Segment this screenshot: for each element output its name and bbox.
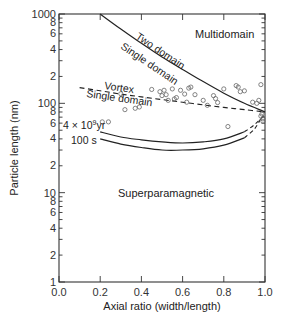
data-point xyxy=(259,83,263,87)
data-point xyxy=(162,88,166,92)
x-tick-label: 0.2 xyxy=(93,286,108,298)
data-point xyxy=(251,100,255,104)
label-100s: 100 s xyxy=(71,134,97,146)
data-point xyxy=(213,96,217,100)
x-tick-label: 0.6 xyxy=(175,286,190,298)
x-tick-label: 1.0 xyxy=(257,286,272,298)
y-tick-label: 10 xyxy=(44,187,56,199)
y-tick-label: 2 xyxy=(50,70,56,82)
y-tick-label: 4 xyxy=(50,132,56,144)
curve-4-x-10-9-yr-solid xyxy=(100,132,244,143)
y-tick-label: 6 xyxy=(50,117,56,129)
region-label-multidomain: Multidomain xyxy=(195,28,254,40)
data-point xyxy=(150,87,154,91)
data-point xyxy=(133,106,137,110)
x-tick-label: 0.0 xyxy=(51,286,66,298)
y-tick-label: 6 xyxy=(50,206,56,218)
data-point xyxy=(257,98,261,102)
label-4e9yr: 4 × 109yr xyxy=(63,119,106,131)
data-point xyxy=(211,94,215,98)
curve-100-s-solid xyxy=(100,138,244,150)
data-point xyxy=(201,98,205,102)
data-point xyxy=(106,120,110,124)
y-tick-label: 100 xyxy=(38,97,56,109)
y-tick-label: 4 xyxy=(50,222,56,234)
y-tick-label: 2 xyxy=(50,249,56,261)
y-tick-label: 6 xyxy=(50,27,56,39)
data-point xyxy=(123,108,127,112)
data-point xyxy=(183,92,187,96)
x-tick-label: 0.8 xyxy=(216,286,231,298)
region-label-superparamagnetic: Superparamagnetic xyxy=(118,187,215,199)
y-axis-title: Particle length (nm) xyxy=(8,100,20,195)
data-point xyxy=(222,87,226,91)
data-point xyxy=(160,94,164,98)
y-tick-label: 4 xyxy=(50,43,56,55)
data-point xyxy=(238,90,242,94)
data-point xyxy=(242,89,246,93)
data-point xyxy=(178,88,182,92)
x-axis-title: Axial ratio (width/length) xyxy=(103,300,220,312)
data-point xyxy=(158,90,162,94)
data-point xyxy=(164,93,168,97)
data-point xyxy=(216,100,220,104)
x-tick-label: 0.4 xyxy=(134,286,149,298)
chart: 1246810246810024681000 0.00.20.40.60.81.… xyxy=(0,0,281,316)
y-tick-label: 2 xyxy=(50,159,56,171)
data-point xyxy=(255,101,259,105)
data-point xyxy=(170,87,174,91)
data-point xyxy=(193,93,197,97)
data-point xyxy=(226,124,230,128)
y-tick-label: 1000 xyxy=(32,8,56,20)
